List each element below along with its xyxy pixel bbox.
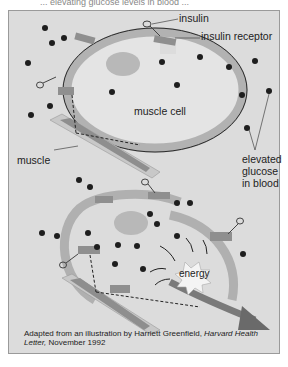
- caption-prefix: Adapted from an illustration by Harriett…: [24, 329, 204, 338]
- insulin-receptor: [58, 87, 74, 95]
- source-caption: Adapted from an illustration by Harriett…: [24, 329, 264, 347]
- label-insulin-receptor: insulin receptor: [201, 31, 272, 42]
- label-energy: energy: [179, 268, 210, 279]
- caption-publication: Harvard Health: [204, 329, 258, 338]
- muscle-fiber: [62, 274, 160, 334]
- label-elevated-glucose-1: elevated: [242, 154, 282, 165]
- label-muscle-cell: muscle cell: [134, 106, 186, 117]
- caption-date: November 1992: [46, 338, 105, 347]
- label-elevated-glucose-3: in blood: [242, 178, 279, 189]
- caption-publication-cont: Letter,: [24, 338, 46, 347]
- label-elevated-glucose-2: glucose: [242, 166, 278, 177]
- arrowhead: [238, 306, 270, 330]
- nucleus: [106, 52, 140, 76]
- label-muscle: muscle: [17, 155, 50, 166]
- nucleus: [114, 211, 148, 235]
- label-insulin: insulin: [179, 13, 209, 24]
- insulin-receptor: [74, 33, 95, 45]
